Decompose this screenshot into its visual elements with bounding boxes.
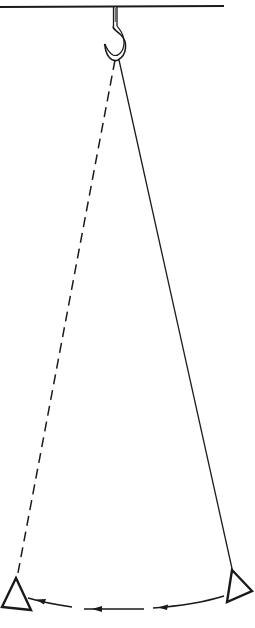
swing-arc (28, 596, 224, 609)
ceiling-line (0, 6, 224, 7)
pendulum-string-dashed (17, 60, 115, 578)
arrow-icon (36, 599, 168, 612)
hook-icon (105, 7, 126, 61)
bob-previous-triangle (2, 578, 31, 610)
pendulum-string-solid (119, 60, 233, 573)
bob-current-triangle (227, 570, 252, 602)
